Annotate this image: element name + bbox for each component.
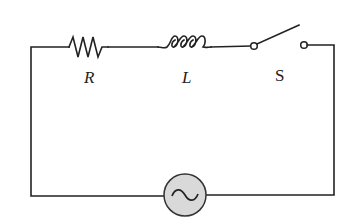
resistor-icon bbox=[69, 37, 108, 57]
switch-icon bbox=[251, 25, 308, 49]
circuit-diagram: R L S bbox=[0, 0, 352, 221]
inductor-label: L bbox=[181, 68, 191, 87]
resistor-label: R bbox=[83, 68, 95, 87]
wire-left bbox=[31, 47, 164, 196]
ac-source-icon bbox=[164, 174, 206, 216]
switch-label: S bbox=[275, 66, 284, 85]
wire-right bbox=[206, 45, 334, 195]
inductor-icon bbox=[158, 36, 211, 48]
wire-l-to-s bbox=[211, 46, 251, 47]
